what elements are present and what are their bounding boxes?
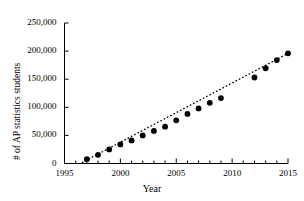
y-tick-label: 200,000 (0, 46, 57, 55)
y-tick-label: 250,000 (0, 18, 57, 27)
y-axis-ticks (65, 23, 69, 164)
data-point (185, 111, 191, 117)
data-point (218, 95, 224, 101)
data-point (285, 50, 291, 56)
data-point (129, 138, 135, 144)
x-tick-label: 2000 (100, 169, 140, 178)
data-point (274, 57, 280, 63)
data-point (196, 106, 202, 112)
x-tick-label: 2010 (212, 169, 252, 178)
data-point (151, 128, 157, 134)
data-point (173, 117, 179, 123)
data-point (252, 75, 258, 81)
x-axis-title: Year (0, 183, 304, 194)
chart-figure: 050,000100,000150,000200,000250,000 1995… (0, 0, 304, 201)
y-tick-label: 150,000 (0, 74, 57, 83)
data-point (117, 141, 123, 147)
axes (65, 23, 289, 164)
y-tick-label: 100,000 (0, 102, 57, 111)
x-tick-label: 2015 (268, 169, 304, 178)
x-tick-label: 2005 (156, 169, 196, 178)
data-point (95, 152, 101, 158)
trend-line-segment (82, 52, 290, 162)
data-point (207, 100, 213, 106)
data-point (263, 65, 269, 71)
y-axis-title: # of AP statistics students (12, 63, 22, 160)
y-tick-label: 0 (0, 159, 57, 168)
y-tick-label: 50,000 (0, 130, 57, 139)
data-point (106, 147, 112, 153)
trend-line (82, 52, 290, 162)
data-point (84, 156, 90, 162)
x-tick-label: 1995 (45, 169, 85, 178)
data-point (140, 133, 146, 139)
data-point (162, 124, 168, 130)
